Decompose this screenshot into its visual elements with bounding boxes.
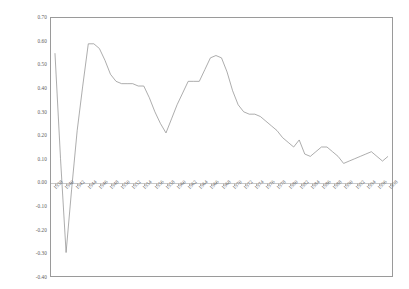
y-tick-label: -0.30: [36, 250, 47, 256]
x-axis: 1938194019421944194619481950195219541956…: [50, 0, 393, 289]
x-tick-label: 1948: [108, 179, 120, 191]
y-tick-label: -0.40: [36, 274, 47, 280]
x-tick-label: 1980: [287, 179, 299, 191]
x-tick-label: 1968: [220, 179, 232, 191]
x-tick-label: 1986: [320, 179, 332, 191]
y-tick-label: 0.20: [38, 132, 47, 138]
x-tick-label: 1984: [309, 179, 321, 191]
y-tick-label: 0.50: [38, 61, 47, 67]
line-chart: 0.700.600.500.400.300.200.100.00-0.10-0.…: [0, 0, 409, 289]
x-tick-label: 1972: [242, 179, 254, 191]
y-tick-label: 0.30: [38, 109, 47, 115]
y-tick-label: 0.70: [38, 14, 47, 20]
y-tick-label: -0.10: [36, 203, 47, 209]
x-tick-label: 1956: [153, 179, 165, 191]
x-tick-label: 1988: [331, 179, 343, 191]
y-axis: 0.700.600.500.400.300.200.100.00-0.10-0.…: [0, 0, 47, 289]
x-tick-label: 1946: [97, 179, 109, 191]
x-tick-label: 1962: [186, 179, 198, 191]
y-tick-label: 0.40: [38, 85, 47, 91]
x-tick-label: 1952: [130, 179, 142, 191]
x-tick-label: 1990: [342, 179, 354, 191]
x-tick-label: 1944: [86, 179, 98, 191]
x-tick-label: 1958: [164, 179, 176, 191]
x-tick-label: 1942: [74, 179, 86, 191]
x-tick-label: 1966: [208, 179, 220, 191]
x-tick-label: 1938: [52, 179, 64, 191]
x-tick-label: 1950: [119, 179, 131, 191]
x-tick-label: 1960: [175, 179, 187, 191]
x-tick-label: 1954: [141, 179, 153, 191]
x-tick-label: 1982: [298, 179, 310, 191]
x-tick-label: 1998: [387, 179, 399, 191]
y-tick-label: -0.20: [36, 227, 47, 233]
x-tick-label: 1974: [253, 179, 265, 191]
x-tick-label: 1964: [197, 179, 209, 191]
x-tick-label: 1940: [63, 179, 75, 191]
x-tick-label: 1992: [354, 179, 366, 191]
x-tick-label: 1994: [365, 179, 377, 191]
y-tick-label: 0.10: [38, 156, 47, 162]
x-tick-label: 1970: [231, 179, 243, 191]
y-tick-label: 0.00: [38, 179, 47, 185]
x-tick-label: 1976: [264, 179, 276, 191]
y-tick-label: 0.60: [38, 38, 47, 44]
x-tick-label: 1996: [376, 179, 388, 191]
x-tick-label: 1978: [275, 179, 287, 191]
